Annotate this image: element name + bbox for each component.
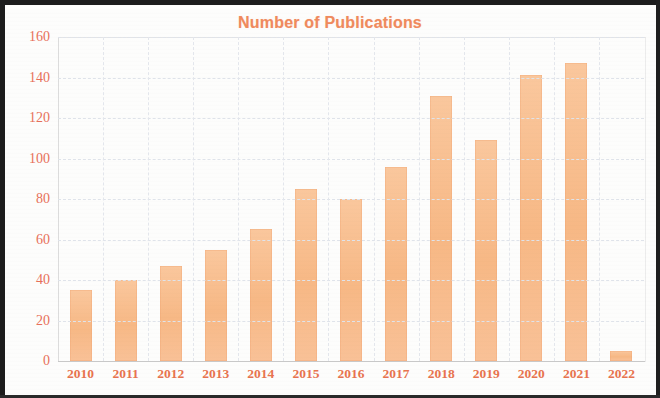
gridline-x-2016 [328, 37, 329, 361]
y-tick-label-0: 0 [6, 353, 50, 369]
gridline-x-2018 [419, 37, 420, 361]
x-tick-label-2011: 2011 [112, 366, 138, 382]
gridline-x-2019 [464, 37, 465, 361]
gridline-x-2021 [554, 37, 555, 361]
bar-2015 [295, 189, 317, 361]
x-tick-label-2020: 2020 [518, 366, 545, 382]
gridline-y-40 [58, 280, 644, 281]
gridline-y-140 [58, 78, 644, 79]
y-tick-label-120: 120 [6, 110, 50, 126]
chart-title: Number of Publications [0, 14, 660, 32]
x-axis-baseline [58, 361, 645, 362]
y-tick-label-60: 60 [6, 232, 50, 248]
bar-2013 [205, 250, 227, 361]
gridline-x-2013 [193, 37, 194, 361]
x-tick-label-2017: 2017 [383, 366, 410, 382]
x-axis-tick-labels: 2010201120122013201420152016201720182019… [58, 366, 644, 392]
x-tick-label-2021: 2021 [563, 366, 590, 382]
gridline-y-80 [58, 199, 644, 200]
page-frame-right-edge [656, 0, 660, 398]
gridline-x-2014 [238, 37, 239, 361]
x-tick-label-2018: 2018 [428, 366, 455, 382]
bar-2019 [475, 140, 497, 361]
x-tick-label-2019: 2019 [473, 366, 500, 382]
gridline-x-2012 [148, 37, 149, 361]
y-tick-label-160: 160 [6, 29, 50, 45]
x-tick-label-2010: 2010 [67, 366, 94, 382]
x-tick-label-2013: 2013 [202, 366, 229, 382]
gridline-x-2011 [103, 37, 104, 361]
x-tick-label-2022: 2022 [608, 366, 635, 382]
y-tick-label-40: 40 [6, 272, 50, 288]
bar-2010 [70, 290, 92, 361]
x-tick-label-2015: 2015 [292, 366, 319, 382]
gridline-x-2022 [599, 37, 600, 361]
page-frame-top-edge [0, 0, 660, 5]
bar-2021 [565, 63, 587, 361]
publications-bar-chart-figure: Number of Publications 02040608010012014… [0, 0, 660, 398]
gridline-y-60 [58, 240, 644, 241]
y-axis-tick-labels: 020406080100120140160 [0, 0, 50, 398]
bar-2022 [610, 351, 632, 361]
x-tick-label-2016: 2016 [338, 366, 365, 382]
gridline-y-20 [58, 321, 644, 322]
y-tick-label-20: 20 [6, 313, 50, 329]
gridline-x-2017 [374, 37, 375, 361]
y-tick-label-80: 80 [6, 191, 50, 207]
gridline-y-120 [58, 118, 644, 119]
y-tick-label-100: 100 [6, 151, 50, 167]
x-tick-label-2014: 2014 [247, 366, 274, 382]
bar-2017 [385, 167, 407, 361]
gridline-x-2020 [509, 37, 510, 361]
gridline-y-100 [58, 159, 644, 160]
x-tick-label-2012: 2012 [157, 366, 184, 382]
bar-2014 [250, 229, 272, 361]
y-tick-label-140: 140 [6, 70, 50, 86]
gridline-y-160 [58, 37, 644, 38]
gridline-x-2015 [283, 37, 284, 361]
